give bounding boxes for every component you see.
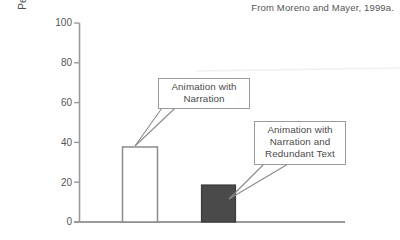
callout-redundant-line-3: Redundant Text — [260, 148, 340, 160]
callout-animation-narration-redundant-text[interactable]: Animation with Narration and Redundant T… — [254, 121, 346, 165]
y-axis-ticks — [74, 23, 80, 182]
callout-narration-line-2: Narration — [164, 93, 244, 105]
callout-redundant-line-2: Narration and — [260, 136, 340, 148]
callout-narration-line-1: Animation with — [164, 81, 244, 93]
bar-animation-with-narration[interactable] — [123, 147, 158, 222]
bar-animation-narration-redundant-text[interactable] — [202, 185, 236, 222]
leader-line-redundant — [229, 164, 288, 199]
callout-redundant-line-1: Animation with — [260, 124, 340, 136]
chart-figure: From Moreno and Mayer, 1999a. Percent Co… — [0, 0, 400, 240]
plot-area — [0, 0, 400, 240]
scan-artifact-line — [196, 68, 400, 71]
callout-animation-with-narration[interactable]: Animation with Narration — [158, 78, 250, 109]
